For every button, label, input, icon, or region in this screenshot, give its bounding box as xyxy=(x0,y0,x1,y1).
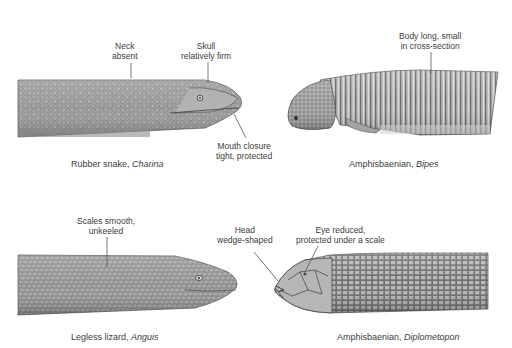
diplometopon-eye-icon xyxy=(304,273,307,276)
caption-genus: Diplometopon xyxy=(404,332,460,342)
callout-line: Scales smooth, xyxy=(77,216,135,226)
bipes-specimen xyxy=(288,70,498,135)
caption-diplometopon: Amphisbaenian, Diplometopon xyxy=(337,332,460,343)
figure: Neck absent Skull relatively firm Mouth … xyxy=(0,0,512,348)
caption-genus: Anguis xyxy=(131,332,159,342)
caption-genus: Charina xyxy=(132,159,164,169)
caption-common-name: Rubber snake, xyxy=(71,159,132,169)
charina-specimen xyxy=(18,80,242,137)
callout-line: Mouth closure xyxy=(216,141,272,151)
callout-line: Head xyxy=(217,225,273,235)
callout-line: tight, protected xyxy=(216,151,272,161)
callout-neck-absent: Neck absent xyxy=(112,41,138,61)
caption-common-name: Legless lizard, xyxy=(71,332,131,342)
caption-charina: Rubber snake, Charina xyxy=(71,159,164,170)
callout-line: absent xyxy=(112,51,138,61)
callout-line: Eye reduced, xyxy=(296,225,385,235)
callout-mouth-closure: Mouth closure tight, protected xyxy=(216,141,272,161)
caption-common-name: Amphisbaenian, xyxy=(337,332,404,342)
callout-head-wedge: Head wedge-shaped xyxy=(217,225,273,245)
callout-line: wedge-shaped xyxy=(217,235,273,245)
caption-anguis: Legless lizard, Anguis xyxy=(71,332,159,343)
callout-line: relatively firm xyxy=(181,51,231,61)
callout-skull-firm: Skull relatively firm xyxy=(181,41,231,61)
callout-body-long: Body long, small in cross-section xyxy=(399,31,461,51)
leader-head xyxy=(254,252,278,281)
callout-eye-reduced: Eye reduced, protected under a scale xyxy=(296,225,385,245)
caption-bipes: Amphisbaenian, Bipes xyxy=(349,159,439,170)
callout-line: protected under a scale xyxy=(296,235,385,245)
anguis-specimen xyxy=(18,255,237,315)
callout-line: in cross-section xyxy=(399,41,461,51)
caption-common-name: Amphisbaenian, xyxy=(349,159,416,169)
callout-scales-smooth: Scales smooth, unkeeled xyxy=(77,216,135,236)
callout-line: unkeeled xyxy=(77,226,135,236)
bipes-eye-icon xyxy=(294,116,298,120)
callout-line: Neck xyxy=(112,41,138,51)
callout-line: Skull xyxy=(181,41,231,51)
caption-genus: Bipes xyxy=(416,159,439,169)
leader-mouth xyxy=(234,114,246,138)
diplometopon-specimen xyxy=(274,253,488,313)
illustration-canvas xyxy=(0,0,512,348)
callout-line: Body long, small xyxy=(399,31,461,41)
